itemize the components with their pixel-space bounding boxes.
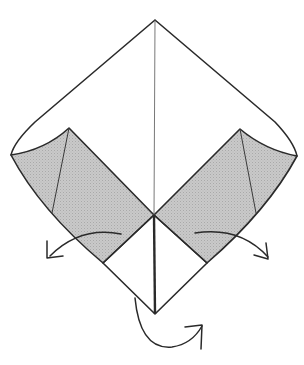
right-shaded-flap: [154, 129, 297, 263]
bottom-turn-over-arrow: [135, 298, 202, 349]
center-crease-line: [154, 20, 155, 215]
center-thick-edge: [154, 215, 155, 314]
paper-outline-top: [11, 20, 297, 156]
left-shaded-flap: [11, 128, 154, 263]
origami-diagram: [0, 0, 304, 365]
